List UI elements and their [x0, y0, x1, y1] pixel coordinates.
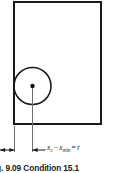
- boundary-rectangle: [14, 2, 101, 124]
- arrowhead-left-at-center: [33, 148, 38, 152]
- dimension-var-2-subscript: min: [63, 147, 71, 153]
- dimension-result: r: [77, 143, 80, 152]
- dimension-equals-sign: =: [70, 143, 77, 152]
- dimension-label: xc−xmin=r: [47, 143, 80, 153]
- arrowhead-right-at-left-extension: [9, 148, 14, 152]
- figure-caption: g. 9.09 Condition 15.1: [0, 163, 113, 173]
- dimension-var-1-subscript: c: [50, 147, 52, 153]
- arrowhead-left-offpage: [0, 148, 5, 152]
- circle-center-dot: [30, 84, 34, 88]
- figure-container: xc−xmin=r g. 9.09 Condition 15.1: [0, 0, 113, 173]
